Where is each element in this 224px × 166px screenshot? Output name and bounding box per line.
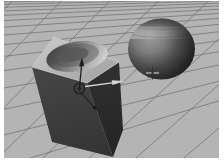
sphere-pivot-icon[interactable] (147, 67, 159, 79)
viewport-image (0, 0, 224, 166)
screenshot-frame (0, 0, 224, 166)
